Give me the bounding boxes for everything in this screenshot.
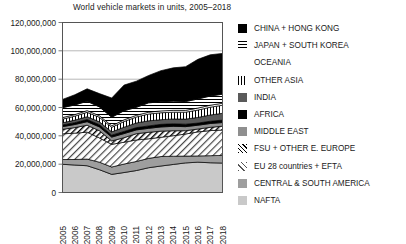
y-axis-tick-label: 20,000,000	[15, 160, 56, 169]
y-axis-tick-label: 120,000,000	[10, 19, 56, 28]
legend-item[interactable]: CENTRAL & SOUTH AMERICA	[238, 175, 406, 192]
x-axis-tick-label: 2007	[83, 226, 92, 244]
legend-swatch-icon	[238, 110, 247, 119]
legend-swatch-icon	[238, 76, 247, 85]
x-axis-tick-label: 2017	[206, 226, 215, 244]
legend-swatch-icon	[238, 24, 247, 33]
x-axis-tick-label: 2010	[120, 226, 129, 244]
legend-item-label: OCEANIA	[254, 58, 291, 67]
y-axis-labels: 020,000,00040,000,00060,000,00080,000,00…	[10, 19, 56, 198]
x-axis-tick-label: 2006	[71, 226, 80, 244]
legend-swatch-icon	[238, 196, 247, 205]
legend-item[interactable]: FSU + OTHER E. EUROPE	[238, 140, 406, 157]
legend-item[interactable]: OTHER ASIA	[238, 72, 406, 89]
legend-item[interactable]: JAPAN + SOUTH KOREA	[238, 37, 406, 54]
legend-item[interactable]: CHINA + HONG KONG	[238, 20, 406, 37]
legend-item[interactable]: MIDDLE EAST	[238, 123, 406, 140]
y-axis-ticks	[59, 23, 63, 193]
legend-swatch-icon	[238, 41, 247, 50]
legend-item-label: FSU + OTHER E. EUROPE	[254, 144, 355, 153]
legend-item[interactable]: INDIA	[238, 89, 406, 106]
legend-item-label: CHINA + HONG KONG	[254, 24, 339, 33]
legend-item-label: OTHER ASIA	[254, 76, 303, 85]
x-axis-tick-label: 2008	[95, 226, 104, 244]
legend-swatch-icon	[238, 179, 247, 188]
legend-item-label: AFRICA	[254, 110, 284, 119]
legend-item[interactable]: OCEANIA	[238, 54, 406, 71]
legend-item[interactable]: EU 28 countries + EFTA	[238, 158, 406, 175]
x-axis-tick-label: 2016	[194, 226, 203, 244]
y-axis-tick-label: 80,000,000	[15, 75, 56, 84]
legend-item[interactable]: AFRICA	[238, 106, 406, 123]
legend-swatch-icon	[238, 162, 247, 171]
chart-legend: CHINA + HONG KONGJAPAN + SOUTH KOREAOCEA…	[238, 20, 406, 209]
x-axis-tick-label: 2018	[219, 226, 228, 244]
legend-item-label: MIDDLE EAST	[254, 127, 309, 136]
x-axis-tick-label: 2005	[59, 226, 68, 244]
x-axis-labels: 2005200620072008200920102011201220132014…	[59, 226, 228, 244]
x-axis-tick-label: 2014	[169, 226, 178, 244]
legend-swatch-icon	[238, 127, 247, 136]
y-axis-tick-label: 40,000,000	[15, 132, 56, 141]
legend-swatch-icon	[238, 58, 247, 67]
chart-screenshot: World vehicle markets in units, 2005–201…	[0, 0, 406, 244]
x-axis-tick-label: 2012	[145, 226, 154, 244]
legend-item-label: NAFTA	[254, 196, 280, 205]
y-axis-tick-label: 60,000,000	[15, 104, 56, 113]
y-axis-tick-label: 100,000,000	[10, 47, 56, 56]
legend-item-label: INDIA	[254, 93, 276, 102]
x-axis-tick-label: 2015	[182, 226, 191, 244]
legend-item-label: JAPAN + SOUTH KOREA	[254, 41, 349, 50]
legend-swatch-icon	[238, 144, 247, 153]
y-axis-tick-label: 0	[51, 189, 56, 198]
x-axis-tick-label: 2009	[108, 226, 117, 244]
legend-item[interactable]: NAFTA	[238, 192, 406, 209]
legend-item-label: EU 28 countries + EFTA	[254, 162, 342, 171]
legend-swatch-icon	[238, 93, 247, 102]
x-axis-tick-label: 2011	[132, 226, 141, 244]
legend-item-label: CENTRAL & SOUTH AMERICA	[254, 179, 370, 188]
x-axis-tick-label: 2013	[157, 226, 166, 244]
